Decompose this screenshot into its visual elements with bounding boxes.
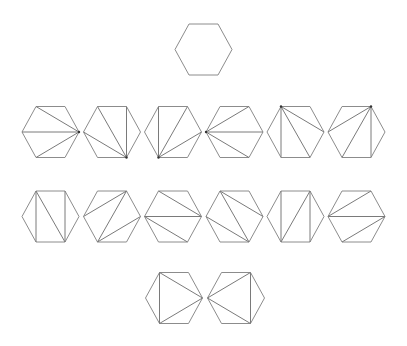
diagonal-line xyxy=(281,107,310,158)
triangulated-hexagon xyxy=(84,107,141,159)
row-zigzag-triangulations xyxy=(22,191,385,242)
hexagon-outline xyxy=(146,273,203,324)
apex-vertex-dot xyxy=(125,156,127,158)
triangulated-hexagon xyxy=(328,191,385,242)
triangulated-hexagon xyxy=(328,105,385,157)
apex-vertex-dot xyxy=(205,131,207,133)
hexagon xyxy=(175,24,232,75)
apex-vertex-dot xyxy=(370,105,372,107)
triangulated-hexagon xyxy=(205,107,263,158)
row-central-triangle-triangulations xyxy=(146,273,265,324)
hexagon-triangulations-diagram xyxy=(0,0,407,346)
apex-vertex-dot xyxy=(280,105,282,107)
triangulated-hexagon xyxy=(208,273,265,324)
row-original-hexagon xyxy=(175,24,232,75)
diagonal-line xyxy=(36,191,65,242)
diagonal-line xyxy=(159,107,188,158)
triangulated-hexagon xyxy=(267,191,324,242)
diagonal-line xyxy=(98,107,127,158)
row-fan-triangulations xyxy=(22,105,385,158)
triangulated-hexagon xyxy=(206,191,263,242)
apex-vertex-dot xyxy=(78,131,80,133)
triangulated-hexagon xyxy=(267,105,324,157)
diagonal-line xyxy=(98,191,127,242)
hexagon-outline xyxy=(208,273,265,324)
triangulated-hexagon xyxy=(145,107,202,159)
triangulated-hexagon xyxy=(145,191,202,242)
triangulated-hexagon xyxy=(22,107,80,158)
hexagon-outline xyxy=(175,24,232,75)
diagonal-line xyxy=(281,191,310,242)
triangulated-hexagon xyxy=(22,191,79,242)
apex-vertex-dot xyxy=(157,156,159,158)
diagonal-line xyxy=(342,107,371,158)
triangulated-hexagon xyxy=(146,273,203,324)
triangulated-hexagon xyxy=(84,191,141,242)
diagonal-line xyxy=(220,191,249,242)
